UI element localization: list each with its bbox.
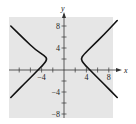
y-axis-label: y (60, 4, 65, 13)
y-tick-label: −4 (51, 88, 60, 97)
y-tick-label: 8 (56, 22, 60, 31)
hyperbola-chart: −44884−4−8 x y (0, 0, 136, 124)
y-tick-label: 4 (56, 44, 60, 53)
x-axis-label: x (123, 66, 128, 75)
y-tick-label: −8 (51, 110, 60, 119)
x-tick-label: −4 (37, 73, 46, 82)
x-tick-label: 8 (107, 73, 111, 82)
x-tick-label: 4 (84, 73, 88, 82)
x-axis-arrow-icon (116, 68, 122, 72)
